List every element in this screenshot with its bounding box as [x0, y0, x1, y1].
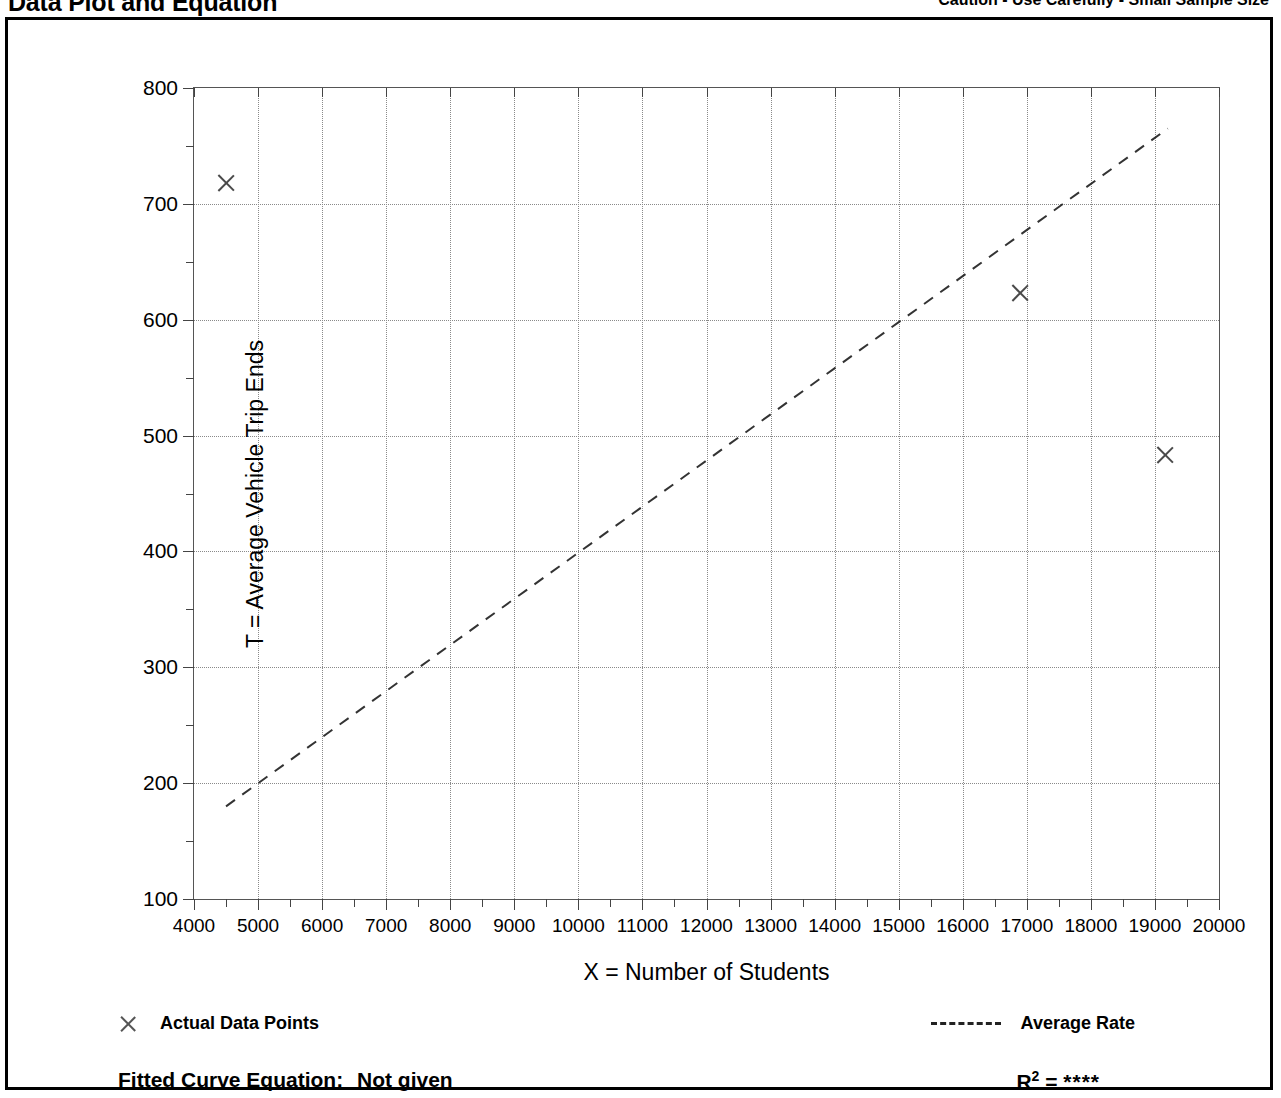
x-axis-tick [963, 899, 964, 910]
x-axis-minor-tick [290, 899, 291, 907]
x-axis-tick-label: 12000 [680, 915, 733, 937]
x-axis-tick [578, 899, 579, 910]
x-axis-minor-tick [931, 899, 932, 907]
y-axis-tick-label: 400 [143, 539, 178, 563]
r2-equals: = [1045, 1070, 1057, 1093]
average-rate-line [226, 129, 1168, 807]
y-axis-tick-label: 600 [143, 308, 178, 332]
chart-frame: T = Average Vehicle Trip Ends X = Number… [5, 17, 1273, 1090]
y-axis-tick-label: 100 [143, 887, 178, 911]
y-axis-tick [183, 551, 194, 552]
plot-area: T = Average Vehicle Trip Ends X = Number… [193, 87, 1220, 900]
x-axis-tick [1091, 899, 1092, 910]
y-axis-minor-tick [186, 378, 194, 379]
y-axis-tick-label: 800 [143, 76, 178, 100]
x-axis-minor-tick [1059, 899, 1060, 907]
y-axis-tick-label: 200 [143, 771, 178, 795]
r2-value: **** [1063, 1070, 1100, 1093]
x-axis-tick-label: 6000 [301, 915, 343, 937]
legend-average-rate: Average Rate [931, 1013, 1135, 1034]
x-axis-title: X = Number of Students [583, 959, 829, 986]
x-axis-tick [899, 899, 900, 910]
y-axis-tick-label: 700 [143, 192, 178, 216]
x-axis-tick [835, 899, 836, 910]
x-axis-tick-label: 7000 [365, 915, 407, 937]
x-axis-minor-tick [1123, 899, 1124, 907]
x-axis-tick-label: 11000 [617, 915, 668, 937]
y-axis-tick [183, 899, 194, 900]
x-axis-tick-label: 4000 [173, 915, 215, 937]
x-axis-minor-tick [418, 899, 419, 907]
x-axis-tick [258, 899, 259, 910]
x-marker-icon [118, 1014, 138, 1034]
x-axis-minor-tick [226, 899, 227, 907]
x-axis-tick [642, 899, 643, 910]
y-axis-tick-label: 300 [143, 655, 178, 679]
x-axis-minor-tick [995, 899, 996, 907]
x-axis-tick [194, 899, 195, 910]
x-axis-tick [1219, 899, 1220, 910]
x-axis-tick-label: 17000 [1000, 915, 1053, 937]
r2-exponent: 2 [1032, 1068, 1040, 1084]
x-axis-minor-tick [674, 899, 675, 907]
y-axis-minor-tick [186, 146, 194, 147]
y-axis-tick [183, 783, 194, 784]
x-axis-tick-label: 9000 [493, 915, 535, 937]
x-axis-tick [322, 899, 323, 910]
x-axis-tick-label: 15000 [872, 915, 925, 937]
x-axis-tick-top [1219, 88, 1220, 97]
y-axis-tick-label: 500 [143, 424, 178, 448]
equation-label: Fitted Curve Equation: [118, 1068, 343, 1091]
y-axis-tick [183, 436, 194, 437]
y-axis-tick [183, 320, 194, 321]
x-axis-tick [771, 899, 772, 910]
legend-label-actual-data-points: Actual Data Points [160, 1013, 319, 1034]
x-axis-minor-tick [482, 899, 483, 907]
x-axis-tick-label: 20000 [1193, 915, 1246, 937]
x-axis-minor-tick [803, 899, 804, 907]
r-squared-row: R2 = **** [1016, 1068, 1100, 1094]
y-axis-tick [183, 88, 194, 89]
page-title: Data Plot and Equation [8, 0, 277, 17]
x-axis-tick-label: 14000 [808, 915, 861, 937]
y-axis-minor-tick [186, 609, 194, 610]
y-axis-tick [183, 204, 194, 205]
equation-value: Not given [357, 1068, 453, 1091]
dashed-line-icon [931, 1022, 1001, 1025]
x-axis-minor-tick [1187, 899, 1188, 907]
fitted-curve-equation: Fitted Curve Equation: Not given [118, 1068, 453, 1092]
x-axis-minor-tick [867, 899, 868, 907]
y-axis-minor-tick [186, 494, 194, 495]
y-axis-tick [183, 667, 194, 668]
x-axis-tick [386, 899, 387, 910]
x-axis-minor-tick [610, 899, 611, 907]
x-axis-tick-label: 10000 [552, 915, 605, 937]
x-axis-tick-label: 19000 [1129, 915, 1182, 937]
y-axis-minor-tick [186, 841, 194, 842]
r2-label: R [1016, 1070, 1031, 1093]
y-axis-title: T = Average Vehicle Trip Ends [242, 340, 269, 648]
x-axis-tick-label: 8000 [429, 915, 471, 937]
x-axis-tick [514, 899, 515, 910]
y-axis-minor-tick [186, 725, 194, 726]
x-axis-tick [1027, 899, 1028, 910]
x-axis-tick-label: 5000 [237, 915, 279, 937]
x-axis-tick [707, 899, 708, 910]
x-axis-tick [450, 899, 451, 910]
y-axis-minor-tick [186, 262, 194, 263]
plot-inner [194, 88, 1219, 899]
caution-note: Caution - Use Carefully - Small Sample S… [938, 0, 1269, 9]
x-axis-minor-tick [546, 899, 547, 907]
legend-actual-data-points: Actual Data Points [118, 1013, 319, 1034]
x-axis-minor-tick [739, 899, 740, 907]
series-layer [194, 88, 1219, 899]
legend-label-average-rate: Average Rate [1021, 1013, 1135, 1034]
x-axis-tick-label: 13000 [744, 915, 797, 937]
x-axis-tick-label: 18000 [1064, 915, 1117, 937]
x-axis-minor-tick [354, 899, 355, 907]
x-axis-tick-label: 16000 [936, 915, 989, 937]
x-axis-tick [1155, 899, 1156, 910]
